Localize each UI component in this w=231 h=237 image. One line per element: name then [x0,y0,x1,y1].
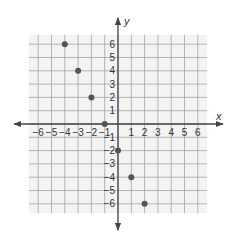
y-axis-label: y [123,15,131,27]
y-tick-label: 5 [109,52,115,63]
data-point [75,68,81,74]
x-tick-label: −4 [59,127,71,138]
y-tick-label: −1 [104,132,116,143]
x-tick-label: −2 [86,127,98,138]
y-tick-label: 2 [109,92,115,103]
data-point [115,148,121,154]
x-tick-label: −5 [46,127,58,138]
y-tick-label: 3 [109,79,115,90]
x-tick-label: −6 [32,127,44,138]
y-tick-label: −5 [104,185,116,196]
x-tick-label: 4 [168,127,174,138]
data-point [128,174,134,180]
data-point [102,121,108,127]
coordinate-plane: −6−5−4−3−2−1123456−6−5−4−3−2−1123456 x y [0,0,231,237]
y-tick-label: −4 [104,172,116,183]
x-tick-label: 5 [182,127,188,138]
y-tick-label: 4 [109,65,115,76]
x-tick-label: 3 [155,127,161,138]
y-tick-label: −3 [104,158,116,169]
x-tick-label: 1 [129,127,135,138]
x-axis-label: x [215,110,222,122]
y-tick-label: 1 [109,105,115,116]
x-tick-label: 2 [142,127,148,138]
data-point [142,201,148,207]
x-tick-label: 6 [195,127,201,138]
y-tick-label: −2 [104,145,116,156]
data-point [62,41,68,47]
x-tick-label: −3 [72,127,84,138]
data-point [88,94,94,100]
y-tick-label: 6 [109,39,115,50]
y-tick-label: −6 [104,198,116,209]
